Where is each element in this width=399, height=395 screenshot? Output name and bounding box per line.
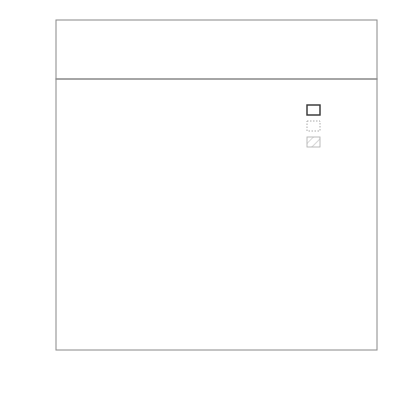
legend-swatch-sp <box>307 137 320 147</box>
figure <box>0 0 399 395</box>
legend-swatch-s0 <box>307 121 320 131</box>
legend-swatch-e <box>307 105 320 115</box>
legend <box>307 105 320 147</box>
main-panel <box>0 0 377 350</box>
main-panel-frame <box>56 79 377 350</box>
top-panel <box>56 20 377 79</box>
top-panel-frame <box>56 20 377 79</box>
